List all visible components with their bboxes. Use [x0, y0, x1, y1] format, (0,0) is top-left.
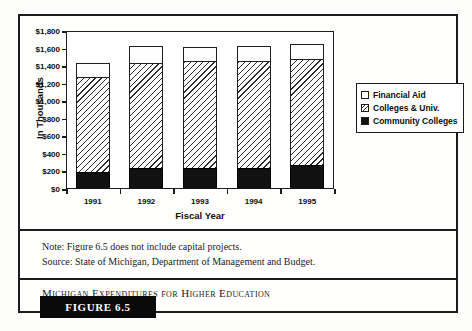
bar-segment-colleges-univ — [183, 61, 217, 167]
bar-group-1993 — [183, 31, 217, 189]
legend-item-colleges-univ: Colleges & Univ. — [361, 102, 458, 114]
x-axis-title: Fiscal Year — [66, 210, 334, 221]
bar-segment-community-colleges — [129, 168, 163, 189]
bar-segment-financial-aid — [290, 44, 324, 59]
legend-label: Colleges & Univ. — [373, 103, 439, 113]
x-tick-label: 1993 — [191, 197, 209, 206]
bar-segment-colleges-univ — [290, 59, 324, 165]
legend-label: Financial Aid — [373, 90, 426, 100]
bar-segment-financial-aid — [129, 46, 163, 63]
bar-group-1994 — [237, 31, 271, 189]
figure-page: In Thousands $0$200$400$600$800$1,000$1,… — [0, 0, 472, 331]
legend-item-community-colleges: Community Colleges — [361, 115, 458, 127]
x-tick-mark — [334, 189, 336, 194]
note-text: Note: Figure 6.5 does not include capita… — [42, 239, 456, 254]
bar-segment-community-colleges — [183, 168, 217, 190]
y-tick-label: $1,000 — [36, 97, 60, 106]
y-tick-label: $0 — [51, 185, 60, 194]
y-tick-label: $400 — [42, 149, 60, 158]
chart-region: In Thousands $0$200$400$600$800$1,000$1,… — [20, 16, 456, 231]
x-tick-label: 1991 — [84, 197, 102, 206]
bar-segment-community-colleges — [290, 165, 324, 189]
bar-segment-financial-aid — [183, 47, 217, 61]
x-tick-mark — [173, 189, 175, 194]
x-tick-mark — [280, 189, 282, 194]
white-square-icon — [361, 91, 369, 99]
x-tick-label: 1992 — [137, 197, 155, 206]
y-tick-label: $1,600 — [36, 44, 60, 53]
bar-segment-colleges-univ — [129, 63, 163, 167]
x-tick-mark — [66, 189, 68, 194]
figure-outer-frame: In Thousands $0$200$400$600$800$1,000$1,… — [18, 14, 458, 313]
bar-group-1991 — [76, 31, 110, 189]
bar-segment-financial-aid — [76, 63, 110, 77]
legend-item-financial-aid: Financial Aid — [361, 89, 458, 101]
figure-number-label: FIGURE 6.5 — [65, 301, 130, 313]
figure-number-tag: FIGURE 6.5 — [40, 296, 156, 318]
black-square-icon — [361, 117, 369, 125]
x-tick-mark — [120, 189, 122, 194]
chart-legend: Financial Aid Colleges & Univ. Community… — [356, 83, 464, 133]
x-tick-label: 1995 — [298, 197, 316, 206]
bar-segment-colleges-univ — [76, 77, 110, 172]
hatched-square-icon — [361, 104, 369, 112]
x-tick-label: 1994 — [245, 197, 263, 206]
y-tick-label: $200 — [42, 167, 60, 176]
bar-segment-colleges-univ — [237, 61, 271, 167]
bar-group-1992 — [129, 31, 163, 189]
y-tick-label: $800 — [42, 114, 60, 123]
notes-block: Note: Figure 6.5 does not include capita… — [20, 231, 456, 280]
bar-segment-community-colleges — [237, 168, 271, 190]
legend-label: Community Colleges — [373, 116, 458, 126]
y-axis-tick-labels: $0$200$400$600$800$1,000$1,200$1,400$1,6… — [20, 24, 64, 196]
source-text: Source: State of Michigan, Department of… — [42, 254, 456, 269]
bar-group-1995 — [290, 31, 324, 189]
y-tick-label: $1,200 — [36, 79, 60, 88]
y-tick-label: $600 — [42, 132, 60, 141]
x-tick-mark — [227, 189, 229, 194]
bar-segment-financial-aid — [237, 46, 271, 61]
y-tick-label: $1,400 — [36, 62, 60, 71]
bar-segment-community-colleges — [76, 172, 110, 189]
y-tick-label: $1,800 — [36, 27, 60, 36]
bars-layer — [66, 31, 334, 189]
